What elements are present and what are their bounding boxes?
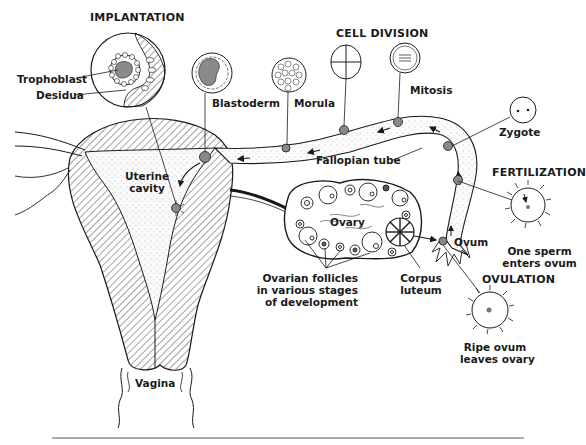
label-ovary: Ovary [330,216,365,228]
ovarian-ligament [230,190,290,210]
label-desidua: Desidua [36,89,84,101]
heading-cell-division: CELL DIVISION [336,28,428,40]
label-trophoblast: Trophoblast [17,73,87,85]
heading-fertilization: FERTILIZATION [492,167,586,179]
label-fallopian-tube: Fallopian tube [316,154,401,166]
ovum-dot [439,237,447,245]
label-fertilization-caption: One sperm enters ovum [502,245,577,269]
corpus-luteum [386,218,414,246]
label-blastoderm: Blastoderm [212,97,280,109]
mitosis-cell [390,43,420,118]
label-ovum: Ovum [454,236,488,248]
four-cell-stage [331,45,361,126]
label-morula: Morula [294,97,335,109]
label-ovulation-caption: Ripe ovum leaves ovary [460,341,530,365]
heading-ovulation: OVULATION [482,274,555,286]
label-mitosis: Mitosis [410,84,452,96]
label-zygote: Zygote [499,126,540,138]
label-uterine-cavity: Uterine cavity [122,170,172,194]
label-ovarian-follicles: Ovarian follicles in various stages of d… [238,272,358,308]
label-corpus-luteum: Corpus luteum [400,272,442,296]
heading-implantation: IMPLANTATION [90,12,185,24]
label-vagina: Vagina [135,377,175,389]
